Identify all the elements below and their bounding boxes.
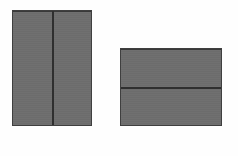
scene-canvas xyxy=(0,0,238,156)
landscape-panel[interactable] xyxy=(120,48,222,126)
portrait-panel-vertical-divider xyxy=(52,11,54,125)
landscape-panel-horizontal-divider xyxy=(121,87,221,89)
portrait-panel[interactable] xyxy=(12,10,92,126)
